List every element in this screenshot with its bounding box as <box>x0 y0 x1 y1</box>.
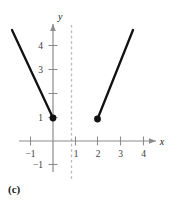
y-axis-arrowhead-icon <box>50 24 56 31</box>
endpoint-marker-right <box>94 116 101 123</box>
right-branch-curve <box>98 30 134 119</box>
x-axis-label: x <box>159 136 165 147</box>
y-tick-label-1: 1 <box>38 113 43 123</box>
y-tick-label-neg1: −1 <box>33 160 43 170</box>
endpoint-marker-left <box>50 115 57 122</box>
graph-figure: −1 1 2 3 4 4 3 1 −1 y x <box>0 0 178 206</box>
coordinate-plane-svg: −1 1 2 3 4 4 3 1 −1 y x <box>0 0 178 206</box>
x-axis-arrowhead-icon <box>149 138 156 144</box>
x-tick-label-4: 4 <box>141 149 146 159</box>
x-tick-label-2: 2 <box>96 149 101 159</box>
y-tick-label-3: 3 <box>38 65 43 75</box>
x-tick-label-neg1: −1 <box>25 149 35 159</box>
x-tick-label-3: 3 <box>118 149 123 159</box>
x-tick-label-1: 1 <box>74 149 79 159</box>
y-tick-label-4: 4 <box>38 41 43 51</box>
figure-caption: (c) <box>8 184 20 195</box>
left-branch-curve <box>12 30 53 118</box>
y-axis-label: y <box>57 11 63 22</box>
